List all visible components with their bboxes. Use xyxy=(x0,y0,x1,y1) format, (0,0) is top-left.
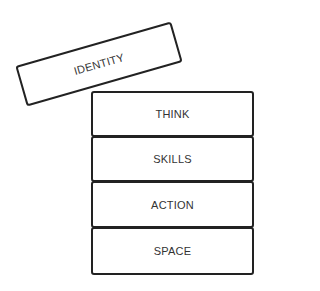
stack-label: ACTION xyxy=(151,199,194,211)
stack-label: SPACE xyxy=(154,245,191,257)
identity-label: IDENTITY xyxy=(72,51,125,77)
stack-block-space: SPACE xyxy=(91,227,254,275)
stack-block-think: THINK xyxy=(91,91,254,137)
stack-label: THINK xyxy=(156,108,190,120)
stack-block-action: ACTION xyxy=(91,181,254,228)
stack-label: SKILLS xyxy=(153,153,192,165)
stack-block-skills: SKILLS xyxy=(91,136,254,182)
